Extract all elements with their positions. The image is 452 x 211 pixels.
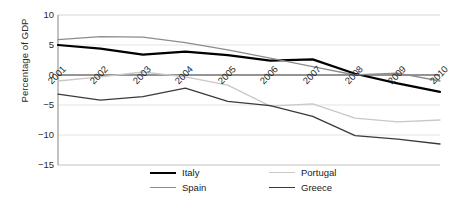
legend-swatch-italy bbox=[150, 172, 176, 174]
legend-label-greece: Greece bbox=[301, 183, 332, 193]
legend-item-greece[interactable]: Greece bbox=[269, 183, 380, 193]
y-axis-tick-labels: 1050−5−10−15 bbox=[26, 0, 54, 211]
y-tick-label: 10 bbox=[28, 10, 54, 20]
legend-label-spain: Spain bbox=[182, 183, 206, 193]
line-chart: Percentage of GDP 1050−5−10−15 200120022… bbox=[0, 0, 452, 211]
legend-item-portugal[interactable]: Portugal bbox=[269, 168, 380, 178]
legend-label-portugal: Portugal bbox=[301, 168, 336, 178]
y-tick-label: −5 bbox=[28, 100, 54, 110]
legend-label-italy: Italy bbox=[182, 168, 199, 178]
y-tick-label: −10 bbox=[28, 130, 54, 140]
legend-swatch-spain bbox=[150, 187, 176, 188]
legend-item-italy[interactable]: Italy bbox=[150, 168, 261, 178]
series-line-greece bbox=[58, 88, 440, 144]
legend-item-spain[interactable]: Spain bbox=[150, 183, 261, 193]
chart-legend: Italy Portugal Spain Greece bbox=[150, 168, 380, 192]
series-line-italy bbox=[58, 45, 440, 92]
y-tick-label: −15 bbox=[28, 160, 54, 170]
legend-swatch-greece bbox=[269, 187, 295, 188]
legend-swatch-portugal bbox=[269, 172, 295, 173]
y-tick-label: 5 bbox=[28, 40, 54, 50]
